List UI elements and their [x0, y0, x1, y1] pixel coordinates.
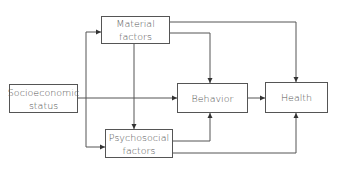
edge-psychosocial-to-behavior	[173, 113, 210, 141]
behavior-label: Behavior	[192, 92, 234, 105]
socioeconomic-status-node: Socioeconomic status	[9, 84, 78, 113]
edge-ses-to-material	[78, 32, 101, 98]
psychosocial-label-1: Psychosocial	[109, 131, 169, 144]
behavior-node: Behavior	[177, 83, 248, 113]
edge-material-to-behavior	[170, 33, 210, 83]
psychosocial-label-2: factors	[109, 144, 169, 157]
edge-material-to-health	[170, 22, 296, 82]
edge-psychosocial-to-health	[173, 113, 296, 153]
material-factors-node: Material factors	[101, 16, 170, 44]
health-label: Health	[281, 91, 312, 104]
material-factors-label-2: factors	[116, 30, 155, 43]
socioeconomic-label-1: Socioeconomic	[8, 86, 79, 99]
health-node: Health	[265, 82, 328, 113]
edge-ses-to-psychosocial	[86, 98, 105, 147]
psychosocial-factors-node: Psychosocial factors	[105, 129, 173, 158]
material-factors-label-1: Material	[116, 17, 155, 30]
socioeconomic-label-2: status	[8, 99, 79, 112]
